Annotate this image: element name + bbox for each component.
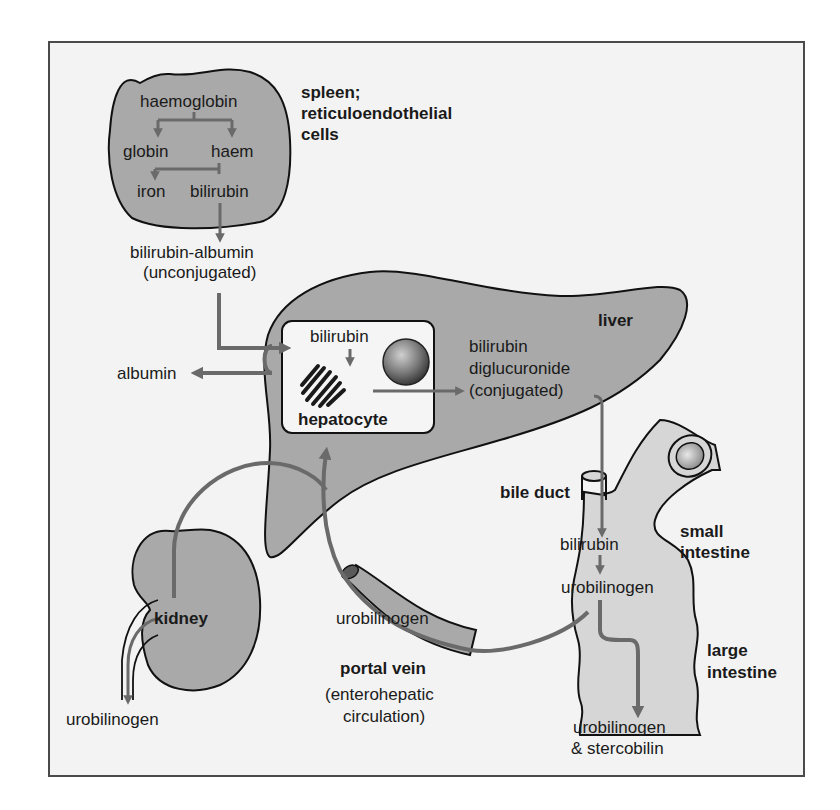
bilirubin-albumin-label: bilirubin-albumin xyxy=(130,243,254,262)
globin-label: globin xyxy=(123,142,168,161)
liver-label: liver xyxy=(598,311,633,330)
small-intestine-line2: intestine xyxy=(680,543,750,562)
spleen-heading-line3: cells xyxy=(301,125,339,144)
intestine-bilirubin-label: bilirubin xyxy=(560,535,619,554)
nucleus-icon xyxy=(383,339,429,385)
small-intestine-line1: small xyxy=(680,522,723,541)
spleen-bilirubin-label: bilirubin xyxy=(190,182,249,201)
excreted-line2: & stercobilin xyxy=(571,739,664,758)
spleen-heading-line1: spleen; xyxy=(301,83,361,102)
portal-vein-sub-line1: (enterohepatic xyxy=(325,685,434,704)
spleen-heading-line2: reticuloendothelial xyxy=(301,104,452,123)
hepatocyte-label: hepatocyte xyxy=(298,410,388,429)
excreted-line1: urobilinogen xyxy=(573,718,666,737)
kidney-urobilinogen-label: urobilinogen xyxy=(66,710,159,729)
albumin-label: albumin xyxy=(117,364,177,383)
intestine-urobilinogen-label: urobilinogen xyxy=(561,578,654,597)
large-intestine-line1: large xyxy=(707,641,748,660)
portal-urobilinogen-label: urobilinogen xyxy=(336,609,429,628)
conjugated-line1: bilirubin xyxy=(469,337,528,356)
bile-duct-label: bile duct xyxy=(500,483,570,502)
conjugated-line2: diglucuronide xyxy=(469,359,570,378)
large-intestine-line2: intestine xyxy=(707,663,777,682)
portal-vein-label: portal vein xyxy=(340,659,426,678)
portal-vein-sub-line2: circulation) xyxy=(343,707,425,726)
bilirubin-metabolism-diagram: haemoglobin globin haem iron bilirubin s… xyxy=(0,0,840,810)
haem-label: haem xyxy=(211,142,254,161)
conjugated-line3: (conjugated) xyxy=(469,381,564,400)
haemoglobin-label: haemoglobin xyxy=(140,92,237,111)
iron-label: iron xyxy=(137,182,165,201)
kidney-label: kidney xyxy=(154,609,208,628)
unconjugated-label: (unconjugated) xyxy=(143,263,256,282)
hepatocyte-bilirubin-label: bilirubin xyxy=(310,327,369,346)
